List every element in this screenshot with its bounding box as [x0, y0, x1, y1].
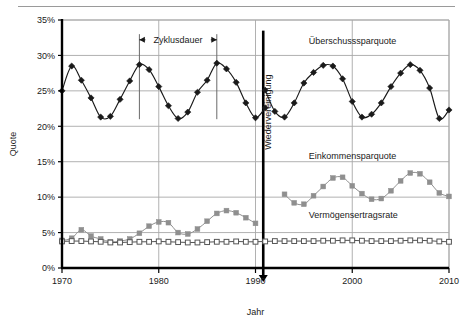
data-point-marker	[147, 239, 152, 244]
series-label-0: Überschusssparquote	[309, 36, 397, 46]
data-point-marker	[79, 227, 84, 232]
data-point-marker	[398, 238, 403, 243]
data-point-marker	[437, 239, 442, 244]
data-point-marker	[292, 200, 297, 205]
x-axis-tick-label: 1990	[245, 276, 265, 286]
chart-figure: ZyklusdauerWiedervereinigung 0%5%10%15%2…	[0, 0, 465, 326]
data-point-marker	[291, 100, 297, 106]
data-point-marker	[447, 194, 452, 199]
data-point-marker	[205, 219, 210, 224]
data-point-marker	[176, 230, 181, 235]
data-point-marker	[176, 240, 181, 245]
data-point-marker	[89, 239, 94, 244]
data-point-marker	[340, 175, 345, 180]
data-point-marker	[195, 240, 200, 245]
data-point-marker	[166, 220, 171, 225]
data-point-marker	[243, 100, 249, 106]
data-point-marker	[331, 176, 336, 181]
data-point-marker	[311, 239, 316, 244]
data-point-marker	[127, 240, 132, 245]
data-point-marker	[301, 239, 306, 244]
data-point-marker	[108, 240, 113, 245]
data-point-marker	[195, 227, 200, 232]
data-point-marker	[321, 238, 326, 243]
data-point-marker	[427, 238, 432, 243]
data-point-marker	[127, 78, 133, 84]
series-line	[265, 64, 449, 119]
data-point-marker	[253, 221, 258, 226]
data-point-marker	[118, 240, 123, 245]
data-point-marker	[263, 239, 268, 244]
x-axis-tick-label: 2000	[342, 276, 362, 286]
data-point-marker	[233, 79, 239, 85]
data-point-marker	[311, 193, 316, 198]
x-axis-title: Jahr	[247, 307, 265, 317]
series-line	[285, 172, 449, 204]
top-divider-rule	[18, 6, 455, 7]
data-point-marker	[117, 96, 123, 102]
data-point-marker	[214, 211, 219, 216]
data-point-marker	[388, 84, 394, 90]
data-point-marker	[147, 224, 152, 229]
y-axis-tick-label: 20%	[37, 122, 55, 132]
data-point-marker	[98, 239, 103, 244]
data-point-marker	[408, 171, 413, 176]
data-point-marker	[78, 77, 84, 83]
data-point-marker	[331, 238, 336, 243]
data-point-marker	[282, 239, 287, 244]
data-point-marker	[379, 239, 384, 244]
data-point-marker	[137, 239, 142, 244]
data-point-marker	[360, 238, 365, 243]
y-axis-tick-label: 15%	[37, 157, 55, 167]
data-point-marker	[320, 62, 326, 68]
data-point-marker	[282, 192, 287, 197]
data-point-marker	[88, 95, 94, 101]
y-axis-title: Quote	[8, 132, 18, 157]
data-point-marker	[224, 239, 229, 244]
data-point-marker	[340, 238, 345, 243]
data-point-marker	[437, 190, 442, 195]
data-point-marker	[389, 239, 394, 244]
y-axis-tick-label: 30%	[37, 51, 55, 61]
data-point-marker	[79, 239, 84, 244]
data-point-marker	[339, 76, 345, 82]
data-point-marker	[398, 178, 403, 183]
data-point-marker	[369, 197, 374, 202]
data-point-marker	[214, 239, 219, 244]
data-point-marker	[360, 191, 365, 196]
data-point-marker	[137, 231, 142, 236]
data-point-marker	[407, 62, 413, 68]
y-axis-tick-label: 0%	[42, 263, 55, 273]
data-point-marker	[166, 239, 171, 244]
y-axis-tick-label: 10%	[37, 192, 55, 202]
data-point-marker	[292, 239, 297, 244]
series-label-2: Vermögensertragsrate	[309, 210, 398, 220]
data-point-marker	[234, 210, 239, 215]
data-point-marker	[89, 234, 94, 239]
data-point-marker	[69, 239, 74, 244]
series-label-1: Einkommensparquote	[309, 151, 397, 161]
data-point-marker	[185, 240, 190, 245]
data-point-marker	[234, 239, 239, 244]
zyklusdauer-label: Zyklusdauer	[154, 35, 203, 45]
data-point-marker	[427, 180, 432, 185]
x-axis-tick-label: 2010	[439, 276, 459, 286]
data-point-marker	[253, 239, 258, 244]
data-point-marker	[349, 98, 355, 104]
data-point-marker	[301, 202, 306, 207]
data-point-marker	[350, 238, 355, 243]
data-point-marker	[369, 239, 374, 244]
gridlines-group	[62, 20, 449, 268]
data-point-marker	[408, 238, 413, 243]
wiedervereinigung-label: Wiedervereinigung	[263, 75, 273, 150]
x-axis-tick-label: 1970	[52, 276, 72, 286]
y-axis-tick-label: 35%	[37, 15, 55, 25]
data-point-marker	[447, 239, 452, 244]
data-point-marker	[156, 220, 161, 225]
data-point-marker	[427, 85, 433, 91]
y-axis-tick-label: 5%	[42, 228, 55, 238]
data-point-marker	[243, 239, 248, 244]
data-point-marker	[272, 239, 277, 244]
data-point-marker	[436, 115, 442, 121]
y-axis-tick-label: 25%	[37, 86, 55, 96]
